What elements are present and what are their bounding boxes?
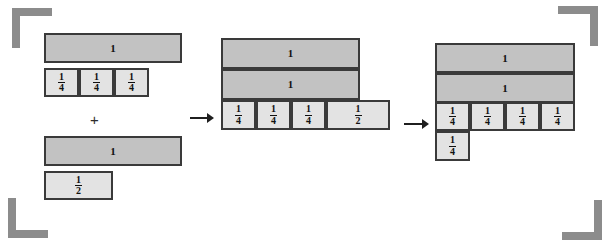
fraction-one-quarter: 1 4: [270, 104, 277, 125]
arrow-shaft: [190, 117, 207, 119]
fraction-one-quarter: 1 4: [128, 72, 135, 93]
arrow-right-icon-2: [404, 119, 430, 129]
final-sum-whole-bar-bottom: 1: [435, 73, 575, 103]
bracket-arm-vertical: [594, 200, 602, 240]
fraction-one-quarter: 1 4: [58, 72, 65, 93]
cell-label: 1: [502, 83, 508, 94]
fraction-one-half: 1 2: [75, 175, 82, 196]
cell-label: 1: [110, 146, 116, 157]
cell-label: 1: [502, 53, 508, 64]
addend-one-whole-bar: 1: [44, 33, 182, 63]
addend-one-quarter-3: 1 4: [114, 68, 149, 97]
addend-one-quarter-2: 1 4: [79, 68, 114, 97]
bracket-arm-vertical: [8, 198, 16, 238]
fraction-one-quarter: 1 4: [484, 106, 491, 127]
crop-bracket-bottom-right: [562, 200, 602, 240]
intermediate-sum-quarter-1: 1 4: [221, 100, 256, 130]
fraction-one-quarter: 1 4: [554, 106, 561, 127]
final-sum-quarter-1: 1 4: [435, 102, 470, 131]
fraction-one-quarter: 1 4: [449, 106, 456, 127]
fraction-one-quarter: 1 4: [235, 104, 242, 125]
final-sum-whole-bar-top: 1: [435, 43, 575, 73]
plus-operator: +: [90, 112, 99, 127]
final-sum-quarter-3: 1 4: [505, 102, 540, 131]
arrow-right-icon-1: [190, 113, 214, 123]
arrow-shaft: [404, 123, 422, 125]
addend-two-half: 1 2: [44, 171, 113, 200]
intermediate-sum-quarter-3: 1 4: [291, 100, 326, 130]
final-sum-remainder-quarter: 1 4: [435, 131, 470, 161]
addend-two-whole-bar: 1: [44, 136, 182, 166]
crop-bracket-bottom-left: [8, 198, 48, 238]
intermediate-sum-half: 1 2: [326, 100, 390, 130]
crop-bracket-top-right: [558, 6, 598, 46]
final-sum-quarter-2: 1 4: [470, 102, 505, 131]
fraction-one-quarter: 1 4: [305, 104, 312, 125]
cell-label: 1: [288, 48, 294, 59]
bracket-arm-vertical: [590, 6, 598, 46]
intermediate-sum-whole-bar-bottom: 1: [221, 69, 360, 100]
final-sum-quarter-4: 1 4: [540, 102, 575, 131]
arrow-head: [207, 113, 214, 123]
fraction-one-quarter: 1 4: [93, 72, 100, 93]
cell-label: 1: [110, 43, 116, 54]
arrow-head: [422, 119, 429, 129]
intermediate-sum-whole-bar-top: 1: [221, 38, 360, 69]
addend-one-quarter-1: 1 4: [44, 68, 79, 97]
fraction-one-half: 1 2: [355, 104, 362, 125]
fraction-one-quarter: 1 4: [449, 135, 456, 156]
bracket-arm-vertical: [12, 8, 20, 48]
cell-label: 1: [288, 79, 294, 90]
fraction-one-quarter: 1 4: [519, 106, 526, 127]
intermediate-sum-quarter-2: 1 4: [256, 100, 291, 130]
